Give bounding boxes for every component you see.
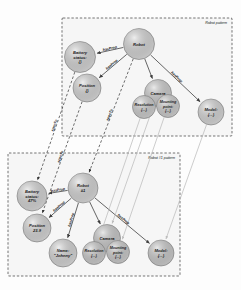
node-name1[interactable]: Name:"Johnny" [49,239,77,267]
container-robot1-pattern-label: Robot #1 pattern [148,156,175,160]
node-label-mounting1: {...} [115,255,122,259]
diagram-svg: Robot pattern Robot #1 pattern RobotBatt… [0,0,241,290]
node-label-mounting: point: [162,105,174,109]
node-label-resolution1: {...} [91,254,98,258]
node-label-name1: "Johnny" [54,253,72,258]
node-label-mounting1: Mounting [110,246,127,250]
node-label-robot: Robot [133,42,145,47]
node-position1[interactable]: Position23.9 [23,214,51,242]
node-label-resolution1: Resolution [84,249,104,253]
node-label-position1: 23.9 [32,228,42,233]
node-label-camera1: Camera [99,236,115,241]
node-mounting1[interactable]: Mountingpoint:{...} [107,241,130,264]
diagram-canvas: Robot pattern Robot #1 pattern RobotBatt… [0,0,241,290]
node-label-robot1: #1 [81,188,86,193]
node-label-mounting: Mounting [160,100,177,104]
node-resolution1[interactable]: Resolution{...} [83,242,106,265]
node-label-position: {} [85,88,89,93]
node-label-battery: {} [78,59,82,64]
node-position[interactable]: Position{} [73,74,101,102]
node-label-model: {...} [208,112,215,117]
node-robot1[interactable]: Robot#1 [68,173,98,203]
node-mounting[interactable]: Mountingpoint:{...} [157,95,180,118]
node-label-battery1: 47% [27,198,37,203]
node-label-resolution: Resolution [134,103,154,107]
node-battery[interactable]: Batterystatus:{} [65,42,96,73]
node-label-camera: Camera [150,91,166,96]
container-robot-pattern-label: Robot pattern [205,21,227,25]
node-label-mounting: {...} [165,109,172,113]
node-model[interactable]: Model:{...} [198,99,224,125]
edge-label-battery-to-battery1: specTo [51,118,59,132]
node-label-resolution: {...} [141,108,148,112]
node-resolution[interactable]: Resolution{...} [133,96,156,119]
node-robot[interactable]: Robot [124,29,155,60]
node-model1[interactable]: Model:{...} [148,240,174,266]
node-label-mounting1: point: [112,251,124,255]
node-battery1[interactable]: Batterystatus:47% [17,181,47,211]
node-label-model1: {...} [158,253,165,258]
